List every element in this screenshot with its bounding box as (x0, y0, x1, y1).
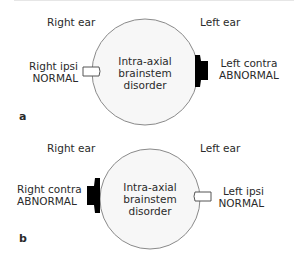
right-side-line2: NORMAL (26, 72, 78, 84)
left-ipsi-label-b: Left ipsi NORMAL (218, 185, 264, 209)
left-side-line2: ABNORMAL (219, 69, 279, 81)
center-text-a: Intra-axial brainstem disorder (115, 55, 175, 91)
right-side-line2: ABNORMAL (17, 195, 82, 207)
normal-plug-icon-a (83, 67, 100, 76)
center-line-2: brainstem (120, 193, 180, 205)
center-line-3: disorder (115, 79, 175, 91)
panel-letter-b: b (19, 232, 27, 245)
abnormal-speaker-icon-a (195, 55, 208, 87)
right-ipsi-label-a: Right ipsi NORMAL (26, 60, 78, 84)
right-ear-label-a: Right ear (47, 16, 95, 28)
left-contra-label-a: Left contra ABNORMAL (219, 57, 279, 81)
right-contra-label-b: Right contra ABNORMAL (17, 183, 82, 207)
right-side-line1: Right ipsi (26, 60, 78, 72)
left-side-line1: Left contra (219, 57, 279, 69)
right-side-line1: Right contra (17, 183, 82, 195)
left-side-line2: NORMAL (218, 197, 264, 209)
panel-letter-a: a (19, 110, 26, 123)
left-ear-label-a: Left ear (200, 16, 240, 28)
left-ear-label-b: Left ear (200, 142, 240, 154)
right-ear-label-b: Right ear (47, 142, 95, 154)
normal-plug-icon-b (194, 192, 211, 201)
center-line-1: Intra-axial (120, 181, 180, 193)
center-text-b: Intra-axial brainstem disorder (120, 181, 180, 217)
diagram-graphics (0, 0, 294, 264)
center-line-1: Intra-axial (115, 55, 175, 67)
center-line-3: disorder (120, 205, 180, 217)
center-line-2: brainstem (115, 67, 175, 79)
left-side-line1: Left ipsi (218, 185, 264, 197)
abnormal-speaker-icon-b (87, 178, 100, 213)
